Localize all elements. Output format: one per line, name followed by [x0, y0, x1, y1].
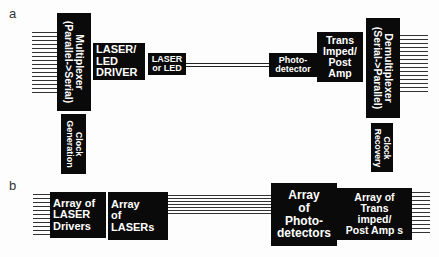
parallel-output-lines [400, 35, 428, 93]
clock-generation-block: Clock Generation [61, 114, 86, 174]
fiber-bundle-lines [168, 195, 271, 215]
panel-a-label: a [9, 6, 16, 21]
clock-generation-text: Clock Generation [65, 120, 83, 168]
photodetectors-array-block: Array of Photo- detectors [271, 183, 337, 246]
multiplexer-text: Multiplexer (Parallel->Serial) [64, 21, 85, 104]
laser-led-driver-block: LASER/ LED DRIVER [93, 43, 145, 80]
multiplexer-block: Multiplexer (Parallel->Serial) [57, 13, 91, 111]
parallel-input-lines [32, 32, 57, 96]
trans-imped-post-amp-block: Trans Imped/ Post Amp [317, 32, 363, 82]
laser-drivers-array-block: Array of LASER Drivers [50, 192, 106, 238]
clock-recovery-text: Clock Recovery [374, 128, 391, 166]
photodetector-block: Photo- detector [269, 53, 317, 77]
array-output-lines [412, 192, 430, 236]
laser-or-led-block: LASER or LED [148, 53, 186, 75]
panel-b-label: b [9, 178, 16, 193]
clock-recovery-block: Clock Recovery [371, 123, 393, 172]
array-input-lines [33, 194, 50, 236]
demultiplexer-text: Demultiplexer (Serial->Parallel) [373, 27, 394, 110]
trans-imped-array-block: Array of Trans imped/ Post Amp s [337, 188, 412, 240]
lasers-array-block: Array of LASERs [108, 192, 168, 240]
optical-fiber-line [186, 66, 269, 67]
demultiplexer-block: Demultiplexer (Serial->Parallel) [366, 18, 400, 118]
optical-fiber-line [186, 63, 269, 64]
optical-link-diagram: a Multiplexer (Parallel->Serial) Clock G… [0, 0, 439, 257]
